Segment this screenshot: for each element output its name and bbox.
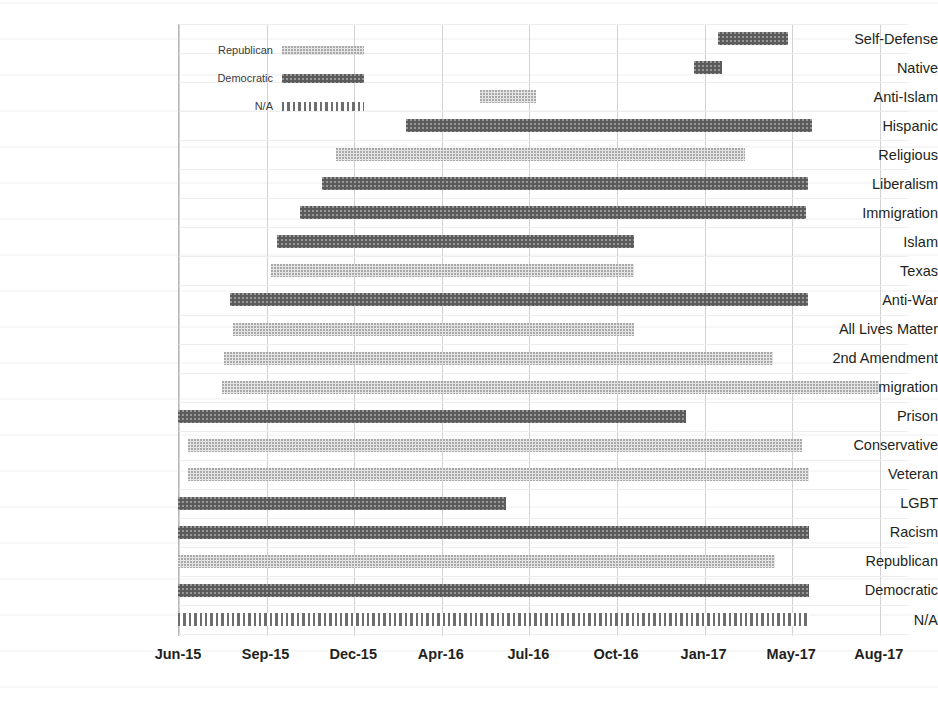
timeline-bar[interactable] <box>480 90 536 103</box>
gridline-horizontal <box>179 547 908 548</box>
gridline-horizontal <box>179 460 908 461</box>
timeline-bar[interactable] <box>178 497 506 510</box>
legend-label: Republican <box>218 44 273 56</box>
gridline-horizontal <box>179 227 908 228</box>
category-label: Native <box>766 61 938 75</box>
category-label: 2nd Amendment <box>766 351 938 365</box>
timeline-bar[interactable] <box>406 119 812 132</box>
x-axis-tick-label: Jul-16 <box>483 646 573 662</box>
gridline-vertical <box>705 24 706 636</box>
gridline-horizontal <box>179 256 908 257</box>
timeline-bar[interactable] <box>224 352 772 365</box>
timeline-bar[interactable] <box>178 526 809 539</box>
category-label: Republican <box>766 554 938 568</box>
legend-label: Democratic <box>217 72 273 84</box>
timeline-bar[interactable] <box>233 323 633 336</box>
timeline-bar[interactable] <box>188 439 802 452</box>
gridline-horizontal <box>179 285 908 286</box>
gantt-timeline-chart: RepublicanDemocraticN/A Self-DefenseNati… <box>0 0 938 705</box>
gridline-horizontal <box>179 576 908 577</box>
x-axis-tick-label: Dec-15 <box>308 646 398 662</box>
timeline-bar[interactable] <box>336 148 745 161</box>
legend-swatch <box>282 102 364 111</box>
timeline-bar[interactable] <box>222 381 879 394</box>
timeline-bar[interactable] <box>230 293 808 306</box>
gridline-horizontal <box>179 344 908 345</box>
timeline-bar[interactable] <box>188 468 809 481</box>
gridline-horizontal <box>179 315 908 316</box>
timeline-bar[interactable] <box>271 264 635 277</box>
category-label: All Lives Matter <box>766 322 938 336</box>
x-axis-tick-label: Aug-17 <box>834 646 924 662</box>
x-axis-tick-label: Oct-16 <box>571 646 661 662</box>
timeline-bar[interactable] <box>178 613 809 626</box>
x-axis-tick-label: Sep-15 <box>221 646 311 662</box>
legend-label: N/A <box>255 100 273 112</box>
x-axis-tick-label: Apr-16 <box>396 646 486 662</box>
gridline-horizontal <box>179 402 908 403</box>
category-label: Anti-Islam <box>766 90 938 104</box>
timeline-bar[interactable] <box>694 61 722 74</box>
gridline-horizontal <box>179 431 908 432</box>
gridline-horizontal <box>179 169 908 170</box>
timeline-bar[interactable] <box>277 235 634 248</box>
x-axis-tick-label: Jan-17 <box>659 646 749 662</box>
gridline-horizontal <box>179 634 908 635</box>
timeline-bar[interactable] <box>178 584 809 597</box>
legend-swatch <box>282 46 364 55</box>
category-label: Self-Defense <box>766 32 938 46</box>
category-label: Texas <box>766 264 938 278</box>
category-label: Religious <box>766 148 938 162</box>
timeline-bar[interactable] <box>322 177 808 190</box>
gridline-horizontal <box>179 24 908 25</box>
timeline-bar[interactable] <box>178 410 686 423</box>
category-label: Islam <box>766 235 938 249</box>
timeline-bar[interactable] <box>300 206 806 219</box>
category-label: Prison <box>766 409 938 423</box>
x-axis-tick-label: May-17 <box>746 646 836 662</box>
gridline-horizontal <box>179 489 908 490</box>
legend-swatch <box>282 74 364 83</box>
timeline-bar[interactable] <box>178 555 775 568</box>
gridline-horizontal <box>179 140 908 141</box>
gridline-horizontal <box>179 605 908 606</box>
legend-item-rep[interactable]: Republican <box>196 40 364 60</box>
timeline-bar[interactable] <box>718 32 787 45</box>
x-axis-tick-label: Jun-15 <box>133 646 223 662</box>
legend-item-na[interactable]: N/A <box>196 96 364 116</box>
gridline-vertical <box>179 24 180 636</box>
chart-legend: RepublicanDemocraticN/A <box>196 40 364 124</box>
gridline-horizontal <box>179 373 908 374</box>
legend-item-dem[interactable]: Democratic <box>196 68 364 88</box>
gridline-horizontal <box>179 198 908 199</box>
gridline-horizontal <box>179 518 908 519</box>
category-label: LGBT <box>766 496 938 510</box>
